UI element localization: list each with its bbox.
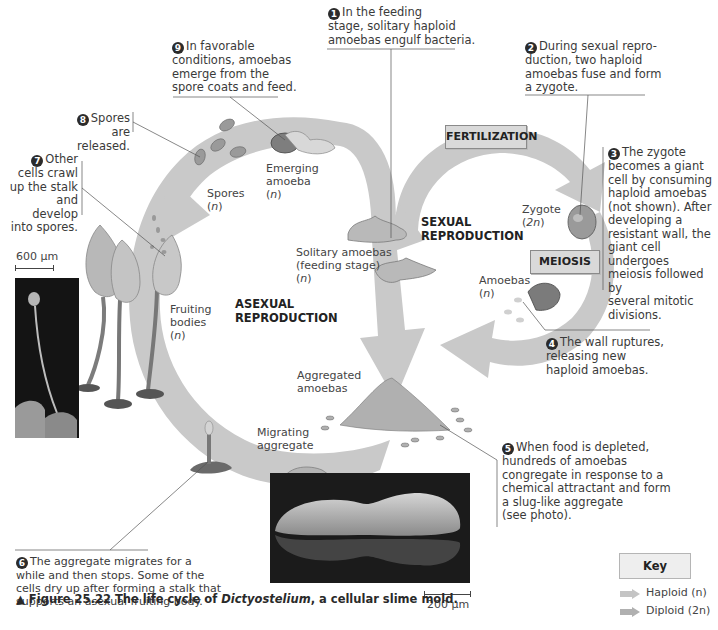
scale-bar-600: 600 µm [15,250,75,275]
note-7-line: Other [45,152,78,166]
asexual-label-line2: REPRODUCTION [235,311,338,325]
amoebas-label: Amoebas (n) [479,274,530,300]
scale-bar-600-tick [15,265,16,271]
figure-caption: ▲ Figure 25.22 The life cycle of Dictyos… [16,592,458,606]
emerging-ploidy-value: n [270,188,277,201]
key-diploid: Diploid (2n) [646,604,710,617]
note-1-line: stage, solitary haploid [328,20,475,34]
sexual-label-line2: REPRODUCTION [421,229,524,243]
note-8-line: Spores [91,111,130,125]
note-3-line: resistant wall, the [608,228,718,242]
spores-ploidy-value: n [211,200,218,213]
slug-photo-art [270,473,470,583]
note-7-line: cells crawl [8,167,78,181]
amoebas-ploidy-value: n [483,287,490,300]
note-5: 5When food is depleted, hundreds of amoe… [502,441,671,523]
migrating-text-1: Migrating [257,426,314,439]
zygote-drawing [568,205,596,239]
asexual-label-line1: ASEXUAL [235,297,338,311]
note-3-line: divisions. [608,309,718,323]
migrating-text-2: aggregate [257,439,314,452]
note-5-line: hundreds of amoebas [502,455,671,469]
figure-number: ▲ Figure 25.22 [16,592,111,606]
note-9-line: spore coats and feed. [172,81,297,95]
note-8: 8Spores are released. [55,112,130,153]
note-3-line: giant cell undergoes [608,241,718,268]
note-5-line: congregate in response to a [502,469,671,483]
note-9: 9In favorable conditions, amoebas emerge… [172,40,297,95]
solitary-text-2: (feeding stage) [296,259,392,272]
caption-text-after: , a cellular slime mold. [311,592,458,606]
note-7: 7Other cells crawl up the stalk and deve… [8,153,78,235]
haploid-arrow-icon [620,589,640,599]
solitary-ploidy-value: n [300,272,307,285]
note-3-line: several mitotic [608,295,718,309]
note-6-line: while and then stops. Some of the [16,569,221,582]
zygote-ploidy-value: 2n [526,216,540,229]
note-8-line: are released. [55,126,130,153]
solitary-text-1: Solitary amoebas [296,246,392,259]
spores-label: Spores (n) [207,187,244,213]
meiosis-box: MEIOSIS [530,250,600,274]
note-1: 1In the feeding stage, solitary haploid … [328,6,475,47]
note-3-line: cell by consuming [608,174,718,188]
note-9-line: emerge from the [172,68,297,82]
aggregated-text-2: amoebas [297,382,361,395]
note-7-line: into spores. [8,221,78,235]
step-8-badge: 8 [77,114,89,126]
solitary-amoebas-label: Solitary amoebas (feeding stage) (n) [296,246,392,285]
note-3-line: meiosis followed by [608,268,718,295]
aggregated-amoebas-label: Aggregated amoebas [297,369,361,395]
emerging-text-1: Emerging [266,162,319,175]
fertilization-box: FERTILIZATION [445,125,527,149]
note-2-line: duction, two haploid [525,54,662,68]
fruiting-bodies-label: Fruiting bodies (n) [170,303,211,342]
note-4-line: haploid amoebas. [546,364,664,378]
note-3: 3The zygote becomes a giant cell by cons… [608,146,718,322]
spores-text: Spores [207,187,244,200]
caption-species: Dictyostelium [221,592,310,606]
note-4-line: releasing new [546,350,664,364]
note-7-line: and develop [8,194,78,221]
slug-photo [270,473,470,583]
note-3-line: (not shown). After [608,201,718,215]
note-4: 4The wall ruptures, releasing new haploi… [546,336,664,377]
note-2-line: amoebas fuse and form [525,68,662,82]
fruiting-body-photo [15,278,79,438]
note-7-line: up the stalk [8,181,78,195]
amoebas-ploidy: (n) [479,287,530,300]
note-5-line: a slug-like aggregate [502,496,671,510]
scale-bar-600-line [15,268,53,269]
note-2: 2During sexual repro- duction, two haplo… [525,40,662,95]
aggregated-text-1: Aggregated [297,369,361,382]
fruiting-body-photo-art [15,278,79,438]
migrating-aggregate-label: Migrating aggregate [257,426,314,452]
note-4-line: The wall ruptures, [560,335,664,349]
scale-bar-600-tick [53,265,54,271]
note-2-line: a zygote. [525,81,662,95]
spores-ploidy: (n) [207,200,244,213]
note-1-line: In the feeding [342,5,422,19]
scale-bar-200-tick [470,591,471,597]
note-1-line: amoebas engulf bacteria. [328,34,475,48]
emerging-text-2: amoeba [266,175,319,188]
key-title: Key [619,553,691,579]
zygote-ploidy: (2n) [522,216,561,229]
emerging-ploidy: (n) [266,188,319,201]
step-6-badge: 6 [16,557,28,569]
note-5-line: (see photo). [502,509,671,523]
key-haploid: Haploid (n) [646,586,707,599]
note-9-line: conditions, amoebas [172,54,297,68]
fruiting-text-2: bodies [170,316,211,329]
scale-bar-600-label: 600 µm [16,250,58,263]
fruiting-text-1: Fruiting [170,303,211,316]
zygote-text: Zygote [522,203,561,216]
emerging-amoeba-label: Emerging amoeba (n) [266,162,319,201]
note-3-line: becomes a giant [608,160,718,174]
note-3-line: haploid amoebas [608,187,718,201]
fruiting-ploidy: (n) [170,329,211,342]
sexual-label-line1: SEXUAL [421,215,524,229]
amoebas-text: Amoebas [479,274,530,287]
note-5-line: When food is depleted, [516,440,649,454]
sexual-reproduction-label: SEXUAL REPRODUCTION [421,215,524,243]
